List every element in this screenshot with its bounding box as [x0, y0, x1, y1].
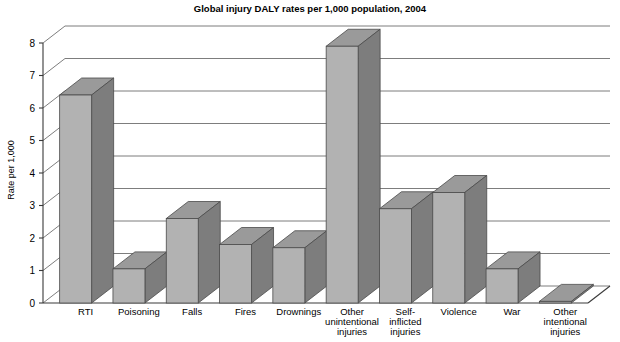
y-tick-label-2: 2: [29, 233, 35, 244]
category-label-2-line-0: Falls: [182, 306, 202, 317]
bar-front-face: [326, 46, 358, 303]
bar-7: [433, 176, 487, 304]
category-label-9-line-2: injuries: [550, 326, 580, 337]
y-tick-label-6: 6: [29, 103, 35, 114]
bar-front-face: [113, 269, 145, 303]
bar-2: [166, 202, 220, 304]
bar-side-face: [358, 29, 380, 303]
bar-chart: Global injury DALY rates per 1,000 popul…: [0, 0, 620, 342]
category-label-0-line-0: RTI: [78, 306, 93, 317]
y-axis-title: Rate per 1,000: [6, 140, 16, 200]
bar-front-face: [539, 301, 571, 303]
bar-4: [273, 231, 327, 303]
category-label-4-line-0: Drownings: [276, 306, 321, 317]
bar-front-face: [166, 219, 198, 304]
y-tick-label-0: 0: [29, 298, 35, 309]
category-label-7-line-0: Violence: [441, 306, 477, 317]
category-label-5-line-2: injuries: [337, 326, 367, 337]
bar-6: [379, 192, 433, 303]
y-tick-label-8: 8: [29, 38, 35, 49]
bar-side-face: [92, 78, 114, 303]
chart-title: Global injury DALY rates per 1,000 popul…: [194, 3, 427, 14]
bar-side-face: [411, 192, 433, 303]
y-tick-label-1: 1: [29, 265, 35, 276]
category-label-1-line-0: Poisoning: [118, 306, 160, 317]
y-tick-label-5: 5: [29, 135, 35, 146]
category-label-8-line-0: War: [503, 306, 520, 317]
y-tick-label-7: 7: [29, 70, 35, 81]
bar-front-face: [220, 245, 252, 304]
bar-front-face: [379, 209, 411, 303]
category-label-3-line-0: Fires: [235, 306, 256, 317]
bar-side-face: [465, 176, 487, 304]
chart-container: Global injury DALY rates per 1,000 popul…: [0, 0, 620, 342]
bar-front-face: [60, 95, 92, 303]
bar-front-face: [486, 269, 518, 303]
bar-front-face: [433, 193, 465, 304]
y-tick-label-3: 3: [29, 200, 35, 211]
bar-front-face: [273, 248, 305, 303]
bar-5: [326, 29, 380, 303]
bar-side-face: [198, 202, 220, 304]
y-tick-label-4: 4: [29, 168, 35, 179]
bar-0: [60, 78, 114, 303]
category-label-6-line-2: injuries: [390, 326, 420, 337]
bar-3: [220, 228, 274, 304]
